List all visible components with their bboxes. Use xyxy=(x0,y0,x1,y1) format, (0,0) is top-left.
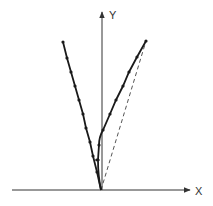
left-trajectory xyxy=(63,42,101,190)
x-axis-label: X xyxy=(195,185,203,197)
right-trajectory-points xyxy=(96,39,148,161)
dashed-chord xyxy=(101,41,146,190)
vector-diagram: X Y xyxy=(0,0,213,206)
right-trajectory xyxy=(98,41,146,190)
y-axis-label: Y xyxy=(109,9,117,21)
